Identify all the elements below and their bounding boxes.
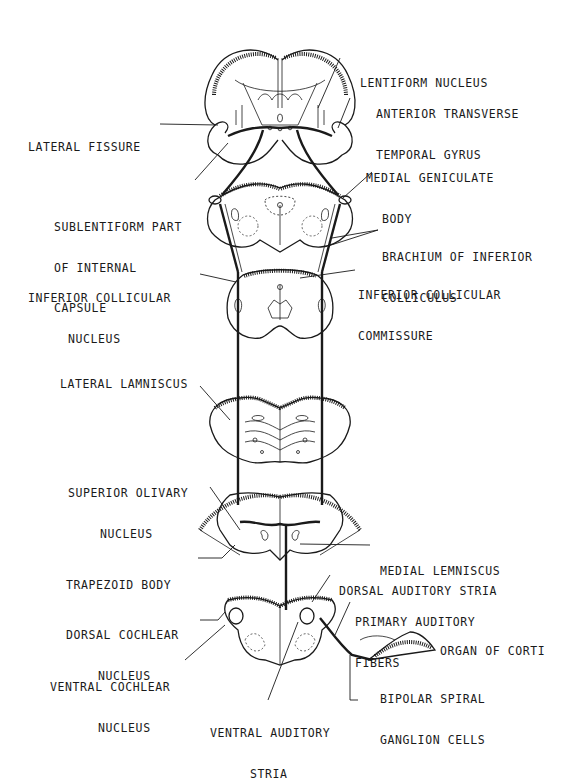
midbrain-section bbox=[227, 270, 333, 339]
pons-section bbox=[210, 397, 350, 463]
label-inferior-collicular-commissure: INFERIOR COLLICULAR COMMISSURE bbox=[358, 262, 501, 357]
label-inferior-collicular-nucleus: INFERIOR COLLICULAR NUCLEUS bbox=[28, 265, 171, 360]
label-lateral-lemniscus: LATERAL LAMNISCUS bbox=[60, 351, 188, 405]
label-lateral-fissure: LATERAL FISSURE bbox=[28, 114, 141, 168]
label-ventral-auditory-stria: VENTRAL AUDITORY STRIA bbox=[210, 700, 330, 782]
label-ventral-cochlear-nucleus: VENTRAL COCHLEAR NUCLEUS bbox=[50, 654, 170, 749]
label-superior-olivary-nucleus: SUPERIOR OLIVARY NUCLEUS bbox=[68, 460, 188, 555]
label-organ-of-corti: ORGAN OF CORTI bbox=[440, 618, 545, 672]
medulla-section bbox=[225, 598, 336, 665]
cerebrum-section bbox=[205, 50, 355, 164]
lower-pons-section bbox=[200, 493, 360, 560]
label-trapezoid-body: TRAPEZOID BODY bbox=[66, 552, 171, 606]
label-bipolar-spiral-ganglion: BIPOLAR SPIRAL GANGLION CELLS bbox=[380, 666, 485, 761]
